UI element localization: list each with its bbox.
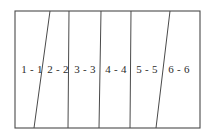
divider-line-4 xyxy=(130,11,131,128)
divider-line-3 xyxy=(99,11,101,128)
region-label-6: 6 - 6 xyxy=(168,63,190,75)
figure-container: 1 - 1 2 - 2 3 - 3 4 - 4 5 - 5 6 - 6 xyxy=(0,0,215,138)
region-label-3: 3 - 3 xyxy=(74,63,96,75)
region-label-4: 4 - 4 xyxy=(105,63,127,75)
region-label-1: 1 - 1 xyxy=(21,63,43,75)
region-label-2: 2 - 2 xyxy=(47,63,69,75)
partitioned-rectangle-diagram: 1 - 1 2 - 2 3 - 3 4 - 4 5 - 5 6 - 6 xyxy=(0,0,215,138)
region-label-5: 5 - 5 xyxy=(136,63,158,75)
